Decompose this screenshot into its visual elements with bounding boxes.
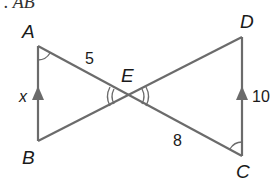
point-label-c: C (236, 161, 250, 180)
point-label-b: B (22, 147, 35, 168)
segment-label-ae: 5 (85, 50, 94, 67)
angle-arc-c-icon (230, 142, 242, 149)
segment-label-ec: 8 (173, 132, 182, 149)
point-label-a: A (21, 21, 35, 42)
similar-triangles-diagram: . AB A B D C E 5 8 x 10 (0, 0, 279, 180)
point-label-e: E (121, 65, 134, 86)
parallel-arrow-dc-icon (236, 86, 248, 100)
angle-arc-e-left-outer-icon (108, 87, 110, 106)
segment-bd (38, 37, 242, 141)
segment-label-ab: x (18, 88, 28, 105)
angle-arc-e-right-outer-icon (146, 87, 148, 106)
angle-arc-a-icon (38, 53, 50, 60)
point-label-d: D (240, 11, 254, 32)
segment-ac (38, 46, 242, 156)
parallel-arrow-ab-icon (32, 86, 44, 100)
triangle-lines (38, 37, 242, 156)
header-text: . AB (4, 0, 35, 12)
segment-label-dc: 10 (252, 88, 270, 105)
